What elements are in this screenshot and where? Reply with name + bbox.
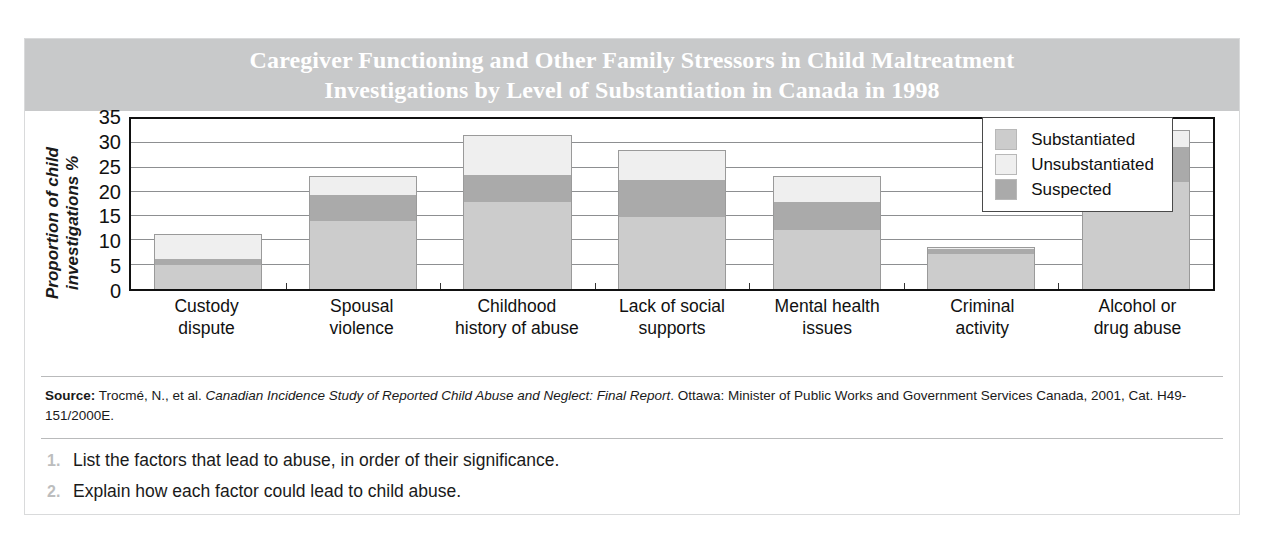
legend-label-suspected: Suspected xyxy=(1031,180,1111,200)
legend-item-suspected: Suspected xyxy=(995,177,1154,202)
y-axis-title-line-2: investigations % xyxy=(63,133,83,313)
y-axis-ticks: 05101520253035 xyxy=(83,111,125,296)
bar-segment-substantiated xyxy=(463,202,571,289)
y-tick-label: 10 xyxy=(99,231,121,251)
y-tick-label: 30 xyxy=(99,132,121,152)
x-axis-label-line: Alcohol or xyxy=(1060,295,1215,317)
source-title-italic: Canadian Incidence Study of Reported Chi… xyxy=(206,388,671,403)
bar-slot xyxy=(749,119,904,289)
stacked-bar[interactable] xyxy=(773,176,881,289)
source-text: Source: Trocmé, N., et al. Canadian Inci… xyxy=(25,377,1239,438)
legend-label-unsubstantiated: Unsubstantiated xyxy=(1031,155,1154,175)
legend-label-substantiated: Substantiated xyxy=(1031,130,1135,150)
bar-segment-unsubstantiated xyxy=(773,176,881,202)
legend-item-substantiated: Substantiated xyxy=(995,127,1154,152)
x-axis-label: Criminalactivity xyxy=(905,295,1060,339)
x-axis-label-line: Criminal xyxy=(905,295,1060,317)
figure-title-bar: Caregiver Functioning and Other Family S… xyxy=(25,39,1239,111)
x-axis-tick xyxy=(904,283,905,289)
bar-segment-substantiated xyxy=(618,217,726,289)
x-axis-tick xyxy=(440,283,441,289)
question-number: 1. xyxy=(47,452,73,470)
x-axis-label: Mental healthissues xyxy=(750,295,905,339)
x-axis-tick xyxy=(595,283,596,289)
stacked-bar[interactable] xyxy=(927,247,1035,289)
x-axis-label-line: Mental health xyxy=(750,295,905,317)
figure-title-line-2: Investigations by Level of Substantiatio… xyxy=(324,75,939,105)
x-axis-label-line: activity xyxy=(905,317,1060,339)
x-axis-tick xyxy=(749,283,750,289)
question-text: Explain how each factor could lead to ch… xyxy=(73,480,461,502)
stacked-bar[interactable] xyxy=(309,176,417,289)
bar-slot xyxy=(131,119,286,289)
x-axis-label: Lack of socialsupports xyxy=(594,295,749,339)
legend-item-unsubstantiated: Unsubstantiated xyxy=(995,152,1154,177)
bar-segment-suspected xyxy=(773,202,881,230)
x-axis-label: Alcohol ordrug abuse xyxy=(1060,295,1215,339)
y-tick-label: 0 xyxy=(110,281,121,301)
legend-swatch-substantiated xyxy=(995,129,1017,150)
y-tick-label: 5 xyxy=(110,256,121,276)
x-axis-label-line: issues xyxy=(750,317,905,339)
bar-segment-unsubstantiated xyxy=(309,176,417,194)
bar-segment-unsubstantiated xyxy=(154,234,262,259)
legend-swatch-suspected xyxy=(995,179,1017,200)
y-tick-label: 35 xyxy=(99,107,121,127)
questions-section: 1. List the factors that lead to abuse, … xyxy=(25,437,1239,511)
x-axis-labels: CustodydisputeSpousalviolenceChildhoodhi… xyxy=(129,295,1215,339)
x-axis-label-line: violence xyxy=(284,317,439,339)
x-axis-label: Spousalviolence xyxy=(284,295,439,339)
x-axis-tick xyxy=(1058,283,1059,289)
x-axis-label-line: supports xyxy=(594,317,749,339)
question-number: 2. xyxy=(47,483,73,501)
stacked-bar[interactable] xyxy=(154,234,262,289)
bar-slot xyxy=(286,119,441,289)
bar-slot xyxy=(440,119,595,289)
bar-chart: Proportion of child investigations % 051… xyxy=(25,111,1239,376)
plot-area: Substantiated Unsubstantiated Suspected xyxy=(129,117,1215,291)
y-axis-title: Proportion of child investigations % xyxy=(43,133,83,313)
chart-legend: Substantiated Unsubstantiated Suspected xyxy=(982,117,1173,212)
bar-segment-substantiated xyxy=(154,265,262,289)
stacked-bar[interactable] xyxy=(463,135,571,289)
source-label: Source: xyxy=(45,388,95,403)
bar-segment-suspected xyxy=(309,195,417,221)
question-text: List the factors that lead to abuse, in … xyxy=(73,449,559,471)
bar-slot xyxy=(595,119,750,289)
x-axis-label-line: history of abuse xyxy=(439,317,594,339)
bar-segment-substantiated xyxy=(309,221,417,289)
figure-panel: Caregiver Functioning and Other Family S… xyxy=(24,38,1240,515)
x-axis-label: Custodydispute xyxy=(129,295,284,339)
stacked-bar[interactable] xyxy=(618,150,726,289)
bar-segment-unsubstantiated xyxy=(463,135,571,175)
source-part-1: Trocmé, N., et al. xyxy=(95,388,205,403)
x-axis-label-line: Childhood xyxy=(439,295,594,317)
bar-segment-substantiated xyxy=(927,254,1035,289)
bar-segment-unsubstantiated xyxy=(618,150,726,180)
y-tick-label: 15 xyxy=(99,206,121,226)
legend-swatch-unsubstantiated xyxy=(995,154,1017,175)
question-item: 1. List the factors that lead to abuse, … xyxy=(47,449,1219,471)
x-axis-label-line: Lack of social xyxy=(594,295,749,317)
bar-segment-substantiated xyxy=(773,230,881,289)
figure-title-line-1: Caregiver Functioning and Other Family S… xyxy=(250,45,1015,75)
x-axis-label-line: dispute xyxy=(129,317,284,339)
bar-segment-suspected xyxy=(618,180,726,217)
x-axis-label-line: Custody xyxy=(129,295,284,317)
y-tick-label: 25 xyxy=(99,157,121,177)
x-axis-label: Childhoodhistory of abuse xyxy=(439,295,594,339)
y-tick-label: 20 xyxy=(99,182,121,202)
source-section: Source: Trocmé, N., et al. Canadian Inci… xyxy=(25,376,1239,439)
question-item: 2. Explain how each factor could lead to… xyxy=(47,480,1219,502)
x-axis-label-line: Spousal xyxy=(284,295,439,317)
y-axis-title-line-1: Proportion of child xyxy=(43,133,63,313)
x-axis-label-line: drug abuse xyxy=(1060,317,1215,339)
bar-segment-suspected xyxy=(463,175,571,202)
x-axis-tick xyxy=(286,283,287,289)
